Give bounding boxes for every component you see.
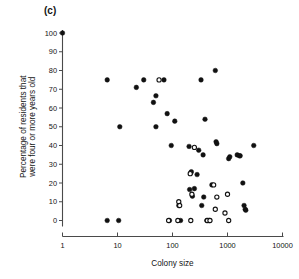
y-tick-label: 30 (49, 160, 57, 169)
data-point-filled (227, 154, 232, 159)
data-point-filled (162, 78, 167, 83)
data-point-filled (192, 186, 197, 191)
x-tick-label: 1000 (219, 241, 235, 250)
data-point-open (157, 78, 161, 82)
data-point-open (178, 203, 182, 207)
y-tick-label: 10 (49, 197, 57, 206)
data-point-open (188, 172, 192, 176)
data-point-filled (187, 144, 192, 149)
data-point-open (212, 183, 216, 187)
x-tick-label: 10000 (272, 241, 293, 250)
data-point-filled (169, 143, 174, 148)
data-point-open (176, 218, 180, 222)
y-tick-label: 90 (49, 47, 57, 56)
data-point-filled (60, 31, 65, 36)
data-point-filled (241, 181, 246, 186)
y-tick-label: 80 (49, 66, 57, 75)
data-point-filled (196, 148, 201, 153)
y-tick-label: 50 (49, 122, 57, 131)
x-axis-tick-labels: 110100100010000 (60, 241, 292, 250)
data-point-filled (238, 154, 243, 159)
data-point-open (189, 218, 193, 222)
data-point-filled (203, 117, 208, 122)
data-point-filled (105, 218, 110, 223)
y-tick-label: 0 (53, 216, 57, 225)
data-point-filled (172, 119, 177, 124)
y-tick-label: 40 (49, 141, 57, 150)
scatter-plot: 0102030405060708090100 110100100010000 C… (0, 0, 299, 279)
y-axis-title-line1: Percentage of residents that (19, 75, 28, 178)
data-point-filled (165, 111, 170, 116)
data-point-filled (154, 124, 159, 129)
y-axis-tick-labels: 0102030405060708090100 (45, 29, 57, 226)
x-tick-label: 100 (166, 241, 178, 250)
data-point-filled (105, 78, 110, 83)
y-tick-label: 100 (45, 29, 57, 38)
data-point-filled (187, 187, 192, 192)
data-point-filled (141, 78, 146, 83)
y-tick-label: 60 (49, 104, 57, 113)
data-point-open (223, 211, 227, 215)
y-tick-label: 70 (49, 85, 57, 94)
data-point-open (227, 218, 231, 222)
data-point-filled (243, 208, 248, 213)
data-point-filled (199, 78, 204, 83)
data-point-filled (199, 203, 204, 208)
data-point-filled (213, 68, 218, 73)
data-point-filled (117, 124, 122, 129)
data-point-filled (116, 218, 121, 223)
data-point-open (215, 195, 219, 199)
x-axis-ticks (63, 233, 283, 237)
data-point-filled (154, 94, 159, 99)
x-tick-label: 1 (60, 241, 64, 250)
data-point-filled (201, 153, 206, 158)
y-axis-title-line2: were four or more years old (28, 76, 37, 178)
data-point-open (192, 145, 196, 149)
data-point-filled (151, 100, 156, 105)
y-tick-label: 20 (49, 179, 57, 188)
x-tick-label: 10 (113, 241, 121, 250)
data-point-filled (215, 141, 220, 146)
data-point-filled (195, 172, 200, 177)
data-point-filled (201, 195, 206, 200)
data-point-open (213, 207, 217, 211)
data-point-filled (251, 143, 256, 148)
x-axis-title: Colony size (151, 259, 194, 268)
data-point-open (190, 192, 194, 196)
data-point-open (225, 192, 229, 196)
data-point-filled (134, 85, 139, 90)
data-points-layer (60, 31, 256, 223)
data-point-open (167, 218, 171, 222)
data-point-open (208, 218, 212, 222)
figure-panel-c: (c) 0102030405060708090100 1101001000100… (0, 0, 299, 279)
